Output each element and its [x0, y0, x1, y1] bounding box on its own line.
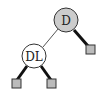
- tree-diagram: D DL: [0, 0, 103, 101]
- tree-node-root: D: [54, 8, 78, 32]
- edge-root-to-dl: [43, 29, 58, 47]
- edge-dl-to-left-leaf: [17, 66, 27, 80]
- leaf-square-dl-left: [12, 79, 21, 88]
- edge-root-to-right-leaf: [74, 30, 88, 46]
- node-label-dl: DL: [25, 50, 43, 64]
- leaf-square-root-right: [86, 45, 95, 54]
- edge-dl-to-right-leaf: [41, 66, 51, 80]
- leaf-square-dl-right: [47, 79, 56, 88]
- tree-node-dl: DL: [22, 44, 46, 68]
- node-label-root: D: [61, 14, 71, 28]
